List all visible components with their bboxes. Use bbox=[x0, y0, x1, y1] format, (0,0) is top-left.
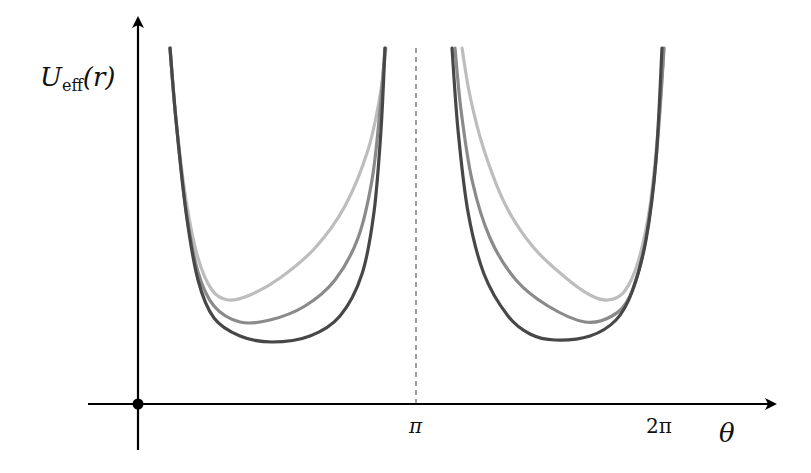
curve-light-branch-1 bbox=[170, 48, 386, 300]
y-label-arg: (r) bbox=[83, 62, 116, 92]
curve-medium bbox=[170, 48, 664, 323]
curve-light-branch-2 bbox=[462, 48, 664, 300]
curves bbox=[170, 48, 664, 342]
origin-dot bbox=[133, 399, 144, 410]
curve-dark-branch-2 bbox=[452, 48, 662, 340]
curve-medium-branch-1 bbox=[170, 48, 385, 323]
curve-light bbox=[170, 48, 664, 300]
x-axis-label: θ bbox=[719, 418, 735, 448]
x-tick-pi: π bbox=[409, 414, 422, 438]
x-tick-2pi: 2π bbox=[646, 414, 672, 438]
y-axis-label: Ueff(r) bbox=[40, 62, 115, 95]
y-label-main: U bbox=[40, 62, 62, 92]
curve-dark-branch-1 bbox=[170, 48, 385, 342]
chart-canvas bbox=[0, 0, 811, 473]
y-label-sub: eff bbox=[62, 76, 83, 95]
